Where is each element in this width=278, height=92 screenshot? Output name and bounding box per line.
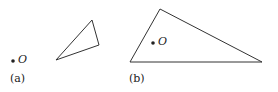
figure-b-label: (b) <box>129 72 145 85</box>
triangle-a <box>56 20 99 60</box>
point-o-a-label: O <box>18 53 27 66</box>
triangle-b <box>130 9 262 62</box>
point-o-a-dot <box>11 59 15 63</box>
figure-a-label: (a) <box>10 72 25 85</box>
point-o-b-dot <box>151 41 155 45</box>
point-o-b-label: O <box>158 35 167 48</box>
